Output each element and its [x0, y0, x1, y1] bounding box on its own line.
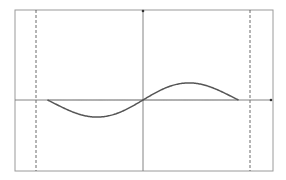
y-axis-arrow-icon: [142, 10, 145, 13]
x-axis-arrow-icon: [270, 99, 273, 102]
line-chart: [0, 0, 286, 180]
plot-frame: [15, 10, 273, 171]
chart-container: [0, 0, 286, 180]
